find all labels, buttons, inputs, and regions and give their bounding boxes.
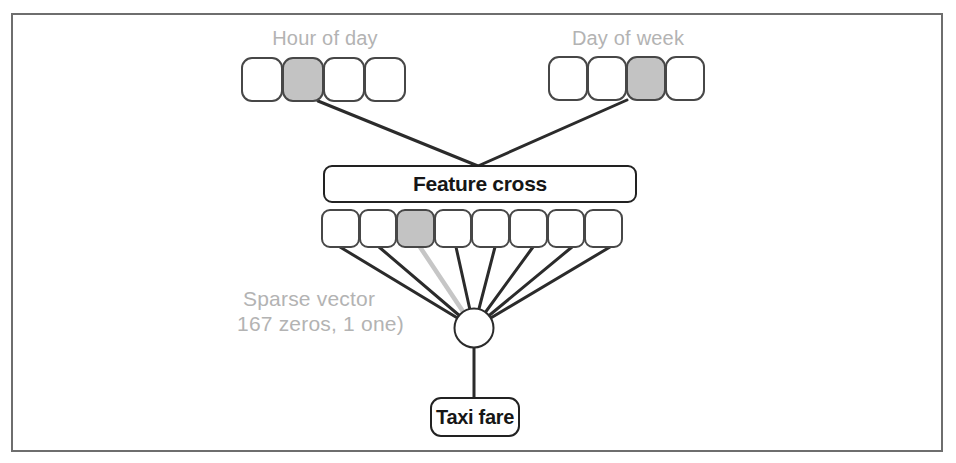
cell — [548, 56, 588, 101]
cell — [321, 209, 360, 248]
cell — [434, 209, 473, 248]
cell — [471, 209, 510, 248]
sparse-vector-caption: Sparse vector 167 zeros, 1 one) — [237, 286, 404, 336]
cell — [665, 56, 705, 101]
feature-cross-box: Feature cross — [323, 165, 637, 203]
cell — [587, 56, 627, 101]
taxi-fare-label: Taxi fare — [436, 406, 514, 429]
cell — [323, 57, 365, 102]
day-of-week-label: Day of week — [548, 27, 708, 50]
cell — [547, 209, 586, 248]
hour-of-day-label: Hour of day — [241, 27, 409, 50]
hour-of-day-cells — [241, 57, 405, 102]
cell — [241, 57, 283, 102]
crossed-vector-cells — [321, 209, 622, 248]
sparse-vector-caption-line2: 167 zeros, 1 one) — [237, 311, 404, 336]
figure-feature-cross-diagram: Hour of day Day of week Feature cross Sp… — [0, 0, 956, 463]
cell — [364, 57, 406, 102]
cell-active — [626, 56, 666, 101]
cell — [584, 209, 623, 248]
taxi-fare-box: Taxi fare — [430, 397, 520, 437]
cell — [359, 209, 398, 248]
cell-active — [282, 57, 324, 102]
sparse-vector-caption-line1: Sparse vector — [237, 286, 404, 311]
feature-cross-label: Feature cross — [413, 172, 547, 196]
cell — [509, 209, 548, 248]
cell-active — [396, 209, 435, 248]
day-of-week-cells — [548, 56, 704, 101]
